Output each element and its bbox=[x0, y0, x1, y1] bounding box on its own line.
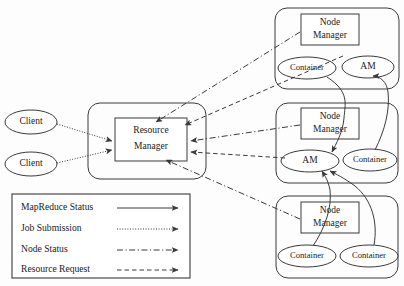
legend: MapReduce Status Job Submission Node Sta… bbox=[12, 194, 190, 278]
legend-item-3-label: Resource Request bbox=[21, 263, 90, 274]
flow-mapreduce-status-c2-to-am1 bbox=[373, 76, 388, 150]
resource-manager-label-line1: Resource bbox=[133, 125, 168, 135]
yarn-architecture-diagram: Node Manager Container AM Node Manager A… bbox=[0, 0, 404, 286]
container-3a-label: Container bbox=[290, 250, 324, 260]
flow-job-submission-client2 bbox=[57, 150, 112, 163]
am-2-label: AM bbox=[302, 155, 318, 165]
container-2b-label: Container bbox=[353, 154, 387, 164]
am-1-label: AM bbox=[360, 61, 376, 71]
flow-node-status-2 bbox=[191, 125, 300, 141]
resource-manager-label-line2: Manager bbox=[134, 141, 169, 151]
flow-job-submission-client1 bbox=[57, 124, 112, 141]
diagram-canvas: Node Manager Container AM Node Manager A… bbox=[0, 0, 404, 286]
node-manager-1-label-line2: Manager bbox=[313, 30, 348, 40]
node-manager-3-label-line2: Manager bbox=[313, 218, 348, 228]
flow-resource-request-am2 bbox=[191, 152, 285, 158]
node-group-1: Node Manager Container AM bbox=[275, 8, 399, 89]
node-manager-1-label-line1: Node bbox=[320, 17, 341, 27]
legend-item-1-label: Job Submission bbox=[21, 222, 82, 233]
legend-item-2-label: Node Status bbox=[21, 243, 68, 254]
node-manager-2-label-line1: Node bbox=[320, 111, 341, 121]
client-1-label: Client bbox=[19, 116, 43, 126]
node-group-3: Node Manager Container Container bbox=[276, 196, 398, 278]
container-3b-label: Container bbox=[352, 250, 386, 260]
legend-item-0-label: MapReduce Status bbox=[21, 201, 93, 212]
clients-group: Client Client bbox=[5, 110, 57, 176]
client-2-label: Client bbox=[19, 158, 43, 168]
resource-manager-group: Resource Manager bbox=[88, 103, 206, 179]
